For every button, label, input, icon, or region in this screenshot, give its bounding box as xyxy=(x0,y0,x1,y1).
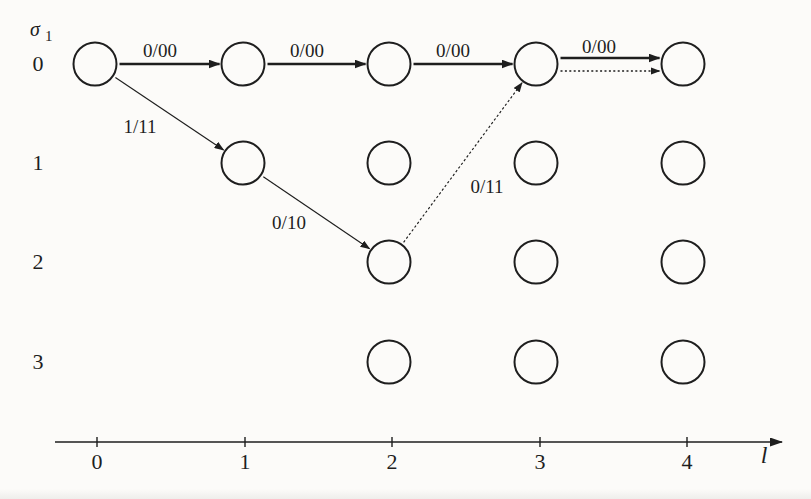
trellis-node xyxy=(368,142,411,185)
edge-label: 0/00 xyxy=(143,40,177,61)
state-label: 3 xyxy=(33,349,44,374)
edge-label: 0/00 xyxy=(290,40,324,61)
state-label: 1 xyxy=(33,150,44,175)
trellis-node xyxy=(662,43,705,86)
edge-label: 0/10 xyxy=(272,212,306,233)
axis-tick-label: 2 xyxy=(387,449,398,474)
trellis-node xyxy=(368,341,411,384)
axis-tick-label: 4 xyxy=(682,449,693,474)
trellis-node xyxy=(662,241,705,284)
time-axis-layer: 01234 xyxy=(55,437,782,474)
transition-edge-thin-dotted xyxy=(404,83,522,242)
trellis-node xyxy=(662,341,705,384)
trellis-diagram-svg: 0/000/000/000/001/110/100/11 01234 0123 … xyxy=(0,0,811,499)
state-axis-layer: 0123 xyxy=(33,51,44,374)
trellis-node xyxy=(515,241,558,284)
axis-tick-label: 1 xyxy=(240,449,251,474)
state-label: 0 xyxy=(33,51,44,76)
trellis-node xyxy=(74,43,117,86)
state-axis-title: σ 1 xyxy=(30,18,52,44)
edge-label: 1/11 xyxy=(123,116,156,137)
trellis-node xyxy=(515,43,558,86)
trellis-node xyxy=(515,142,558,185)
edge-label: 0/11 xyxy=(470,176,503,197)
trellis-node xyxy=(662,142,705,185)
axis-tick-label: 3 xyxy=(535,449,546,474)
edge-label: 0/00 xyxy=(436,40,470,61)
trellis-node xyxy=(222,43,265,86)
trellis-node xyxy=(515,341,558,384)
trellis-node xyxy=(222,142,265,185)
trellis-node xyxy=(368,241,411,284)
state-label: 2 xyxy=(33,249,44,274)
sigma-subscript: 1 xyxy=(45,28,53,44)
axis-tick-label: 0 xyxy=(92,449,103,474)
edge-label: 0/00 xyxy=(582,36,616,57)
trellis-figure: 0/000/000/000/001/110/100/11 01234 0123 … xyxy=(0,0,811,499)
sigma-symbol: σ xyxy=(30,18,41,40)
trellis-node xyxy=(368,43,411,86)
time-axis-title: l xyxy=(761,442,768,468)
transition-edge-thin xyxy=(115,78,223,150)
nodes-layer xyxy=(74,43,705,384)
